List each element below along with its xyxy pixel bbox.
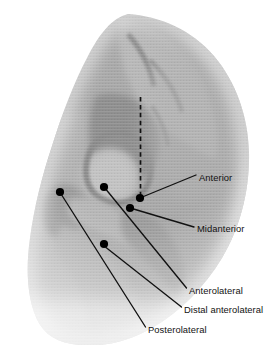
- landmark-label-distal-anterolateral: Distal anterolateral: [184, 304, 263, 315]
- landmark-label-posterolateral: Posterolateral: [148, 324, 207, 335]
- landmark-label-midanterior: Midanterior: [197, 223, 244, 234]
- landmark-label-anterior: Anterior: [199, 172, 232, 183]
- annotated-radiograph-figure: AnteriorMidanteriorAnterolateralDistal a…: [0, 0, 280, 345]
- landmark-label-anterolateral: Anterolateral: [189, 285, 243, 296]
